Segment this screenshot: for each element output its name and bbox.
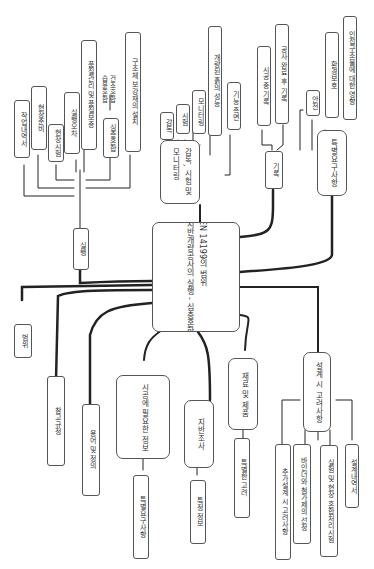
spec-child-environment[interactable]: 환경보호 — [325, 32, 339, 118]
branch-design-considerations[interactable]: 설계 시 고려사항 — [303, 352, 331, 432]
design-child-additional[interactable]: 추가설계 시 고려사항 — [275, 444, 291, 560]
branch-execution[interactable]: 실행 — [73, 228, 89, 270]
site-child-specific-info[interactable]: 특정 정보 — [190, 480, 206, 544]
exec-child-work-specification[interactable]: 작업내역서 — [14, 100, 30, 158]
center-title: EN 14199의 범위지반개량공사의 실행 - 심층혼합 — [183, 222, 209, 332]
rec-child-during-construction[interactable]: 시공 중 기록 — [257, 46, 271, 126]
design-child-binder-selection[interactable]: 바인더와 첨가제의 선정 — [293, 444, 311, 544]
sup-child-supervision[interactable]: 감독 — [160, 112, 174, 140]
branch-scope[interactable]: 범위 — [14, 324, 32, 358]
branch-supervision[interactable]: 감독, 시험 및모니터링 — [160, 140, 200, 204]
branch-terms[interactable]: 용어 및 정의 — [82, 404, 100, 496]
exec-child-site-test[interactable]: 현장시험 — [48, 124, 64, 162]
mat-child-special-consideration[interactable]: 특별한 고려 — [234, 438, 250, 518]
exec-child-quality-control[interactable]: 품질관리 및 품질보증 — [81, 40, 97, 150]
branch-records[interactable]: 기록 — [265, 151, 283, 189]
sup-child-monitoring[interactable]: 모니터링 — [192, 90, 206, 134]
exec-child-reinforcement-installation[interactable]: 구조체 보강재의 설치 — [125, 32, 141, 152]
exec-child-site-preparation[interactable]: 현장준비 — [31, 86, 47, 150]
design-child-lab-field-tests[interactable]: 실험 및 현장 혼합처리시험 — [320, 445, 338, 557]
branch-references[interactable]: 참고규정 — [47, 376, 65, 466]
sup-child-testing[interactable]: 시험 — [176, 104, 190, 134]
design-child-design-specification[interactable]: 설계내역서 — [345, 444, 359, 508]
info-child-special-requirements[interactable]: 특별요구사항 — [133, 475, 149, 559]
branch-special-requirements[interactable]: 특별요구사항 — [317, 130, 347, 196]
branch-site-investigation[interactable]: 지반조사 — [184, 400, 214, 468]
center-node[interactable]: EN 14199의 범위지반개량공사의 실행 - 심층혼합 — [152, 222, 240, 332]
rec-child-after-completion[interactable]: 공사 완료 후 기록 — [275, 24, 289, 124]
sup-child-functional-aspects[interactable]: 기능 측면 — [227, 82, 241, 130]
exec-child-deep-mixing[interactable]: 심층혼합 — [103, 118, 119, 158]
exec-child-execution-tolerance[interactable]: 실행오차 — [64, 92, 80, 154]
mixing-method-note: 건조혼합습윤혼합 — [100, 75, 116, 107]
branch-materials[interactable]: 재료 및 제품 — [228, 358, 258, 430]
branch-construction-info[interactable]: 시공에 필요한 정보 — [116, 375, 170, 459]
spec-child-adjacent-structures[interactable]: 인접구조물에 대한 영향 — [343, 16, 357, 120]
spec-child-safety[interactable]: 안전 — [306, 90, 320, 116]
sup-child-improved-soil-performance[interactable]: 개량된 흙의 성능 — [208, 26, 222, 136]
